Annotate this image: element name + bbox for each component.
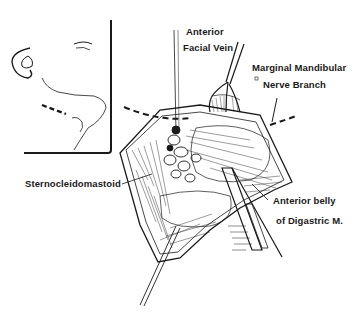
surgical-illustration — [0, 0, 359, 316]
label-digastric-line1: Anterior belly — [273, 195, 336, 206]
label-marginal-mandibular-line1: Marginal Mandibular — [252, 62, 346, 73]
inset-face-profile — [12, 20, 111, 153]
label-anterior-facial-vein-line1: Anterior — [186, 26, 224, 37]
label-digastric-line2: of Digastric M. — [276, 215, 343, 226]
marginal-mandibular-marker — [255, 77, 258, 80]
label-anterior-facial-vein-line2: Facial Vein — [183, 42, 233, 53]
label-sternocleidomastoid: Sternocleidomastoid — [25, 178, 121, 189]
surgical-field — [120, 105, 292, 262]
leader-anterior-facial-vein — [174, 30, 176, 132]
illustration-canvas: Anterior Facial Vein Marginal Mandibular… — [0, 0, 359, 316]
leader-marginal-mandibular — [272, 98, 277, 122]
blade-retractor — [222, 168, 282, 257]
label-marginal-mandibular-line2: Nerve Branch — [263, 79, 326, 90]
